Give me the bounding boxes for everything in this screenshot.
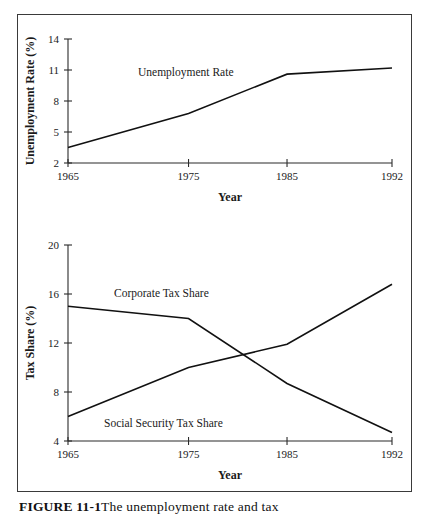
svg-text:5: 5 (54, 126, 60, 138)
svg-text:16: 16 (48, 288, 60, 300)
figure-caption-label: FIGURE 11-1 (19, 499, 101, 514)
figure-frame: 25811141965197519851992YearUnemployment … (17, 14, 412, 492)
svg-text:8: 8 (54, 386, 60, 398)
svg-text:1985: 1985 (276, 170, 299, 182)
svg-text:1992: 1992 (381, 448, 403, 460)
svg-text:Unemployment Rate: Unemployment Rate (138, 66, 234, 79)
tax-share-chart: 481216201965197519851992YearTax Share (%… (18, 205, 413, 493)
svg-text:Social Security Tax Share: Social Security Tax Share (104, 417, 223, 430)
svg-text:1965: 1965 (57, 170, 80, 182)
svg-text:14: 14 (48, 33, 60, 45)
svg-text:1985: 1985 (276, 448, 299, 460)
figure-caption: FIGURE 11-1The unemployment rate and tax (19, 499, 431, 515)
svg-text:1975: 1975 (178, 448, 201, 460)
svg-text:1992: 1992 (381, 170, 403, 182)
figure-caption-text: The unemployment rate and tax (101, 499, 279, 514)
svg-text:1965: 1965 (57, 448, 80, 460)
unemployment-chart: 25811141965197519851992YearUnemployment … (18, 15, 413, 205)
svg-text:2: 2 (54, 157, 60, 169)
svg-text:20: 20 (48, 239, 60, 251)
svg-text:Year: Year (218, 468, 243, 482)
svg-text:1975: 1975 (178, 170, 201, 182)
svg-text:8: 8 (54, 95, 60, 107)
svg-text:Tax Share (%): Tax Share (%) (23, 306, 37, 381)
svg-text:12: 12 (48, 337, 59, 349)
svg-text:Unemployment Rate (%): Unemployment Rate (%) (23, 37, 37, 166)
svg-text:4: 4 (54, 435, 60, 447)
tax-share-chart-panel: 481216201965197519851992YearTax Share (%… (18, 205, 411, 493)
svg-text:Year: Year (218, 190, 243, 204)
svg-text:Corporate Tax Share: Corporate Tax Share (114, 287, 209, 300)
svg-text:11: 11 (48, 64, 59, 76)
